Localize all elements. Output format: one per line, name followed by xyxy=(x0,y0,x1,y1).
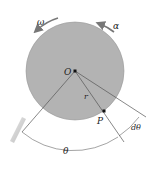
theta-label: θ xyxy=(63,146,69,156)
center-point-o xyxy=(74,70,77,73)
point-label: P xyxy=(96,116,104,126)
center-label: O xyxy=(64,67,72,77)
rotating-disk-diagram: ω α O r P dθ θ xyxy=(0,0,159,173)
theta-arc xyxy=(22,132,118,151)
omega-label: ω xyxy=(37,17,45,27)
dtheta-label: dθ xyxy=(131,123,141,132)
point-p xyxy=(103,110,106,113)
alpha-label: α xyxy=(113,21,119,31)
